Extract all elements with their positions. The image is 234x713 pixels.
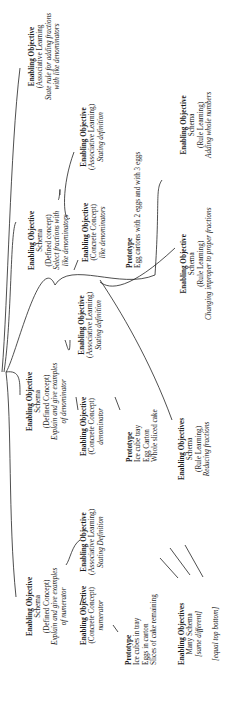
node-type: (Concrete Concept) bbox=[88, 397, 96, 456]
node-title: Enabling Objectives bbox=[178, 603, 186, 665]
node-many-schema: Enabling Objectives Many Schema [same di… bbox=[178, 603, 220, 665]
node-desc: Egg cartons with 2 eggs and with 3 eggs bbox=[134, 152, 142, 268]
node-prototype-ice-cube: Prototype Ice cube tray Egg Carton Whole… bbox=[126, 409, 160, 462]
node-desc: Egg Carton bbox=[143, 409, 151, 462]
node-title: Enabling Objective bbox=[28, 211, 36, 270]
node-rule-improper-proper: Enabling Objective Schema (Rule Learning… bbox=[180, 208, 214, 320]
node-type: Schema bbox=[36, 211, 44, 270]
node-concrete-like-denominators: Enabling Objective (Concrete Concept) li… bbox=[82, 203, 107, 262]
node-title: Enabling Objectives bbox=[178, 418, 186, 480]
node-desc: Eggs in carton bbox=[142, 594, 150, 665]
node-title: Enabling Objective bbox=[28, 13, 36, 100]
node-concrete-denominator: Enabling Objective (Concrete Concept) de… bbox=[80, 397, 105, 456]
node-defined-denominator: Enabling Objective Schema (Defined Conce… bbox=[26, 363, 68, 440]
node-desc: State rule for adding fractions bbox=[45, 13, 53, 100]
node-prototype-egg-cartons: Prototype Egg cartons with 2 eggs and wi… bbox=[126, 152, 143, 268]
node-desc: Explain and give examples bbox=[51, 363, 59, 440]
node-desc: denominator bbox=[97, 397, 105, 456]
node-associative-definition-3: Enabling Objective (Associative Learning… bbox=[80, 509, 105, 575]
node-desc: Ice cubes in tray bbox=[133, 594, 141, 665]
node-type: (Associative Learning) bbox=[88, 509, 96, 575]
node-desc: [same different] bbox=[195, 603, 203, 665]
node-type: (Defined Concept) bbox=[43, 568, 51, 645]
node-type: (Rule Learning) bbox=[195, 418, 203, 480]
node-type: (Concrete Concept) bbox=[88, 586, 96, 645]
node-desc: like denominators bbox=[99, 203, 107, 262]
node-rule-adding-whole: Enabling Objective Schema (Rule Learning… bbox=[180, 92, 214, 158]
node-associative-definition-2: Enabling Objective (Associative Learning… bbox=[78, 292, 103, 358]
node-desc: like denominators bbox=[62, 211, 70, 270]
node-desc: Changing improper to proper fractions bbox=[205, 208, 213, 320]
node-desc: Stating definition bbox=[95, 292, 103, 358]
node-defined-numerator: Enabling Objective Schema (Defined Conce… bbox=[26, 568, 68, 645]
node-type: Schema bbox=[34, 363, 42, 440]
node-associative-rule-adding: Enabling Objective (Associative Learning… bbox=[28, 13, 62, 100]
node-desc: of numerator bbox=[60, 568, 68, 645]
node-title: Prototype bbox=[125, 594, 133, 665]
node-desc: Ice cube tray bbox=[134, 409, 142, 462]
node-type: (Defined concept) bbox=[45, 211, 53, 270]
node-desc: Stating definition bbox=[97, 104, 105, 170]
node-title: Prototype bbox=[126, 409, 134, 462]
node-desc: Explain and give examples bbox=[51, 568, 59, 645]
node-concrete-numerator: Enabling Objective (Concrete Concept) nu… bbox=[80, 586, 105, 645]
node-title: Enabling Objective bbox=[26, 568, 34, 645]
node-defined-like-denominators: Enabling Objective Schema (Defined conce… bbox=[28, 211, 70, 270]
node-title: Enabling Objective bbox=[80, 509, 88, 575]
node-title: Enabling Objective bbox=[80, 397, 88, 456]
node-rule-reducing: Enabling Objectives Schema (Rule Learnin… bbox=[178, 418, 212, 480]
node-title: Prototype bbox=[126, 152, 134, 268]
node-title: Enabling Objective bbox=[82, 203, 90, 262]
node-desc: Reducing fractions bbox=[203, 418, 211, 480]
node-type: Schema bbox=[188, 208, 196, 320]
node-title: Enabling Objective bbox=[180, 92, 188, 158]
node-type: (Rule Learning) bbox=[197, 92, 205, 158]
node-desc: Adding whole numbers bbox=[205, 92, 213, 158]
node-desc: [equal top bottom] bbox=[212, 603, 220, 665]
node-desc: Stating Definition bbox=[97, 509, 105, 575]
node-title: Enabling Objective bbox=[180, 208, 188, 320]
node-desc: Select fractions with bbox=[53, 211, 61, 270]
node-desc: numerator bbox=[97, 586, 105, 645]
node-type: (Associative Learning) bbox=[86, 292, 94, 358]
node-title: Enabling Objective bbox=[78, 292, 86, 358]
node-type: (Defined Concept) bbox=[43, 363, 51, 440]
node-desc: Slices of cake remaining bbox=[150, 594, 158, 665]
node-type: Many Schema bbox=[186, 603, 194, 665]
node-associative-definition-1: Enabling Objective (Associative Learning… bbox=[80, 104, 105, 170]
node-type: Schema bbox=[186, 418, 194, 480]
node-prototype-ice-cubes: Prototype Ice cubes in tray Eggs in cart… bbox=[125, 594, 159, 665]
node-desc: with like denominators bbox=[53, 13, 61, 100]
node-type: Schema bbox=[34, 568, 42, 645]
node-type: (Associative Learning bbox=[36, 13, 44, 100]
node-desc: Whole sliced cake bbox=[151, 409, 159, 462]
node-type: (Concrete Concept) bbox=[90, 203, 98, 262]
node-desc: of denominator bbox=[60, 363, 68, 440]
node-type: (Associative Learning) bbox=[88, 104, 96, 170]
node-type: Schema bbox=[188, 92, 196, 158]
node-title: Enabling Objective bbox=[80, 104, 88, 170]
node-title: Enabling Objective bbox=[80, 586, 88, 645]
node-type: (Rule Learning) bbox=[197, 208, 205, 320]
node-title: Enabling Objective bbox=[26, 363, 34, 440]
spacer bbox=[203, 603, 211, 665]
